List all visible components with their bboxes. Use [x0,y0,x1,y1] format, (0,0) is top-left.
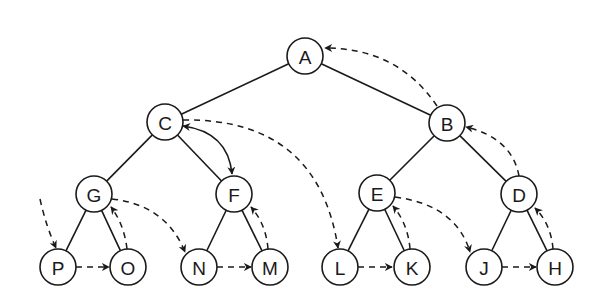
tree-edge-f-n [207,210,226,251]
node-label: D [512,185,526,206]
node-label: L [335,258,346,279]
tree-edge-c-g [107,135,153,181]
node-o: O [110,249,146,285]
thread-o-to-g [111,207,127,249]
node-label: E [371,184,384,205]
node-label: G [87,185,102,206]
node-label: M [262,258,278,279]
node-f: F [216,176,252,212]
node-label: K [406,258,419,279]
node-label: O [121,258,136,279]
tree-edge-e-l [348,209,369,251]
node-label: A [299,47,312,68]
node-b: B [429,105,465,141]
thread-k-to-e [393,206,410,249]
node-n: N [181,249,217,285]
tree-edge-e-k [385,209,405,250]
node-label: P [52,258,65,279]
thread-h-to-d [535,208,553,249]
node-label: H [548,258,562,279]
tree-edges [66,64,547,251]
tree-edge-d-j [492,210,511,251]
node-j: J [466,249,502,285]
thread-m-to-f [251,207,268,249]
node-label: N [192,258,206,279]
node-c: C [147,104,183,140]
node-k: K [394,249,430,285]
tree-edge-d-h [527,210,547,251]
tree-edge-a-c [181,64,288,115]
node-m: M [252,249,288,285]
node-label: C [158,113,172,134]
thread-start-to-p [40,199,56,248]
thread-b-to-a [325,48,437,106]
thread-g-to-n [112,199,185,252]
node-label: F [228,185,240,206]
tree-edge-a-b [321,64,430,116]
node-e: E [359,175,395,211]
thread-c-to-l [183,120,338,248]
node-label: B [441,114,454,135]
threaded-binary-tree-diagram: ACBGFEDPONMLKJH [0,0,603,293]
node-d: D [501,176,537,212]
node-label: J [479,258,489,279]
tree-edge-b-d [460,136,506,182]
dashed-threads [40,48,553,267]
node-g: G [76,176,112,212]
node-h: H [537,249,573,285]
tree-edge-c-f [177,135,221,181]
tree-edge-b-e [390,136,435,181]
node-a: A [287,38,323,74]
node-l: L [322,249,358,285]
node-p: P [40,249,76,285]
tree-edge-f-m [242,210,262,251]
tree-edge-g-p [66,210,86,251]
thread-e-to-j [395,197,470,252]
